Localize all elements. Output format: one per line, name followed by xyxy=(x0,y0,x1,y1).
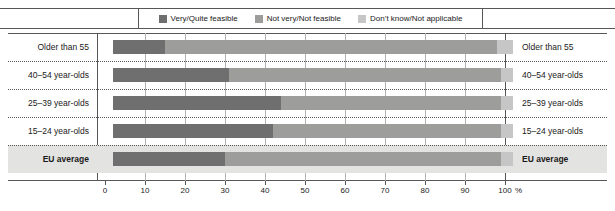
axis-tick-label: 10 xyxy=(141,186,150,196)
row-separator xyxy=(8,145,607,146)
legend-item-dont-know-not-applicable: Don’t know/Not applicable xyxy=(358,14,463,23)
axis-tick xyxy=(105,181,106,185)
chart-row: 15–24 year-olds15–24 year-olds xyxy=(8,117,607,145)
axis-tick xyxy=(505,181,506,185)
axis-tick xyxy=(225,181,226,185)
stacked-bar xyxy=(113,124,513,138)
stacked-bar-chart: Very/Quite feasible Not very/Not feasibl… xyxy=(0,0,615,211)
axis-tick-label: 0 xyxy=(103,186,107,196)
axis-tick xyxy=(465,181,466,185)
chart-row: EU averageEU average xyxy=(8,145,607,173)
legend-swatch-icon xyxy=(159,15,167,23)
bar-segment xyxy=(113,152,225,166)
row-separator xyxy=(8,89,607,90)
bar-segment xyxy=(501,124,513,138)
bar-segment xyxy=(501,96,513,110)
row-label-right: 40–54 year-olds xyxy=(514,61,615,89)
bar-segment xyxy=(229,68,501,82)
bar-segment xyxy=(113,96,281,110)
row-separator xyxy=(8,61,607,62)
axis-tick-label: 100 xyxy=(498,186,511,196)
bar-segment xyxy=(165,40,497,54)
chart-row: 25–39 year-olds25–39 year-olds xyxy=(8,89,607,117)
row-separator xyxy=(8,117,607,118)
bar-segment xyxy=(501,152,513,166)
legend-swatch-icon xyxy=(255,15,263,23)
row-label-right: Older than 55 xyxy=(514,33,615,61)
row-label-left: EU average xyxy=(8,145,97,173)
bar-segment xyxy=(501,68,513,82)
row-label-left: 15–24 year-olds xyxy=(8,117,97,145)
row-label-left: 40–54 year-olds xyxy=(8,61,97,89)
legend: Very/Quite feasible Not very/Not feasibl… xyxy=(138,8,483,29)
axis-tick xyxy=(145,181,146,185)
bar-segment xyxy=(281,96,501,110)
stacked-bar xyxy=(113,96,513,110)
x-axis: % 0102030405060708090100 xyxy=(0,181,615,211)
chart-row: Older than 55Older than 55 xyxy=(8,33,607,61)
axis-tick xyxy=(345,181,346,185)
bar-segment xyxy=(113,40,165,54)
axis-tick-label: 70 xyxy=(381,186,390,196)
axis-tick xyxy=(305,181,306,185)
row-label-left: Older than 55 xyxy=(8,33,97,61)
axis-tick-label: 80 xyxy=(421,186,430,196)
row-label-right: 25–39 year-olds xyxy=(514,89,615,117)
axis-tick xyxy=(385,181,386,185)
axis-tick xyxy=(265,181,266,185)
row-label-right: 15–24 year-olds xyxy=(514,117,615,145)
bar-segment xyxy=(273,124,501,138)
bar-segment xyxy=(497,40,513,54)
axis-tick xyxy=(425,181,426,185)
axis-tick xyxy=(185,181,186,185)
axis-tick-label: 20 xyxy=(181,186,190,196)
bar-segment xyxy=(225,152,501,166)
axis-tick-label: 50 xyxy=(301,186,310,196)
axis-tick-label: 40 xyxy=(261,186,270,196)
legend-item-label: Very/Quite feasible xyxy=(171,14,238,23)
legend-item-label: Don’t know/Not applicable xyxy=(370,14,463,23)
legend-swatch-icon xyxy=(358,15,366,23)
legend-item-not-very-not-feasible: Not very/Not feasible xyxy=(255,14,341,23)
legend-item-label: Not very/Not feasible xyxy=(267,14,341,23)
stacked-bar xyxy=(113,40,513,54)
axis-tick-label: 90 xyxy=(461,186,470,196)
row-label-right: EU average xyxy=(514,145,615,173)
stacked-bar xyxy=(113,152,513,166)
chart-row: 40–54 year-olds40–54 year-olds xyxy=(8,61,607,89)
axis-tick-label: 60 xyxy=(341,186,350,196)
stacked-bar xyxy=(113,68,513,82)
axis-unit-label: % xyxy=(515,186,522,196)
bar-segment xyxy=(113,68,229,82)
bar-segment xyxy=(113,124,273,138)
axis-tick-label: 30 xyxy=(221,186,230,196)
row-label-left: 25–39 year-olds xyxy=(8,89,97,117)
legend-item-very-quite-feasible: Very/Quite feasible xyxy=(159,14,238,23)
chart-rows: Older than 55Older than 5540–54 year-old… xyxy=(0,33,615,181)
